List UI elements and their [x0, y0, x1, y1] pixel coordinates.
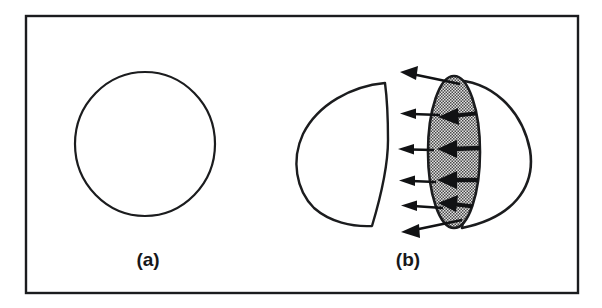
figure-container: (a) (b): [0, 0, 602, 308]
figure-canvas: (a) (b): [0, 0, 602, 308]
panel-label-b: (b): [396, 249, 420, 270]
panel-label-a: (a): [136, 249, 159, 270]
